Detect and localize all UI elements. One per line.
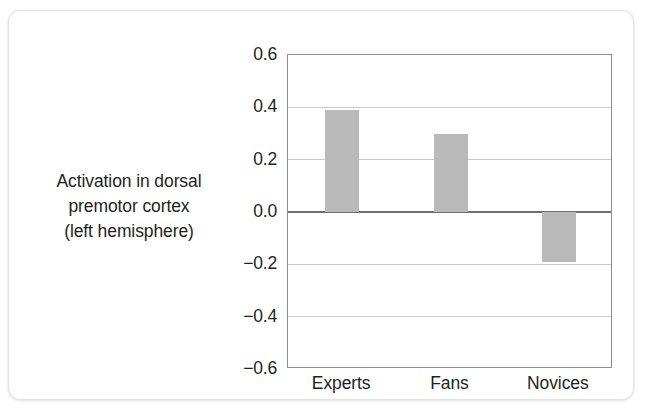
- source-attribution: From Beilock et al. (2008). © 2008 Natio…: [597, 10, 634, 47]
- y-axis-title-line-1: Activation in dorsal: [23, 169, 235, 194]
- gridline-5: [288, 316, 611, 317]
- figure-card: Activation in dorsal premotor cortex (le…: [8, 10, 634, 400]
- gridline-4: [288, 264, 611, 265]
- gridline-1: [288, 107, 611, 108]
- y-tick-label-2: 0.2: [221, 148, 277, 169]
- x-tick-label-novices: Novices: [498, 373, 618, 394]
- bar-fans: [434, 134, 468, 213]
- y-axis-title-line-3: (left hemisphere): [23, 219, 235, 244]
- y-tick-label-6: −0.6: [221, 358, 277, 379]
- y-tick-label-3: 0.0: [221, 201, 277, 222]
- y-axis-title-line-2: premotor cortex: [23, 194, 235, 219]
- plot-area: [287, 54, 612, 368]
- bar-novices: [542, 212, 576, 262]
- y-axis-title: Activation in dorsal premotor cortex (le…: [23, 169, 235, 244]
- x-tick-label-fans: Fans: [390, 373, 510, 394]
- y-tick-label-4: −0.2: [221, 253, 277, 274]
- source-attribution-line-2: Academy of Sciences: [597, 10, 616, 47]
- y-tick-label-1: 0.4: [221, 96, 277, 117]
- y-tick-label-5: −0.4: [221, 305, 277, 326]
- source-attribution-line-1: From Beilock et al. (2008). © 2008 Natio…: [616, 10, 634, 47]
- y-tick-label-0: 0.6: [221, 44, 277, 65]
- bar-experts: [325, 110, 359, 212]
- x-tick-label-experts: Experts: [281, 373, 401, 394]
